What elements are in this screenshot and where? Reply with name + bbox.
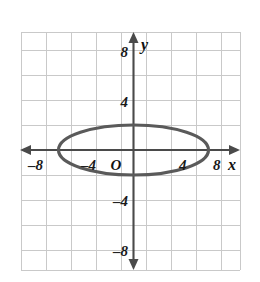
x-tick-label-8: 8 [213,157,221,173]
y-axis-name: y [139,36,149,54]
y-tick-label--4: –4 [112,193,129,209]
y-tick-label--8: –8 [112,243,129,259]
y-tick-label-8: 8 [121,44,129,60]
graph-svg: –8 –4 4 8 8 4 –4 –8 O y x [0,0,260,282]
coordinate-plane-figure: –8 –4 4 8 8 4 –4 –8 O y x [0,0,260,282]
y-tick-label-4: 4 [120,94,129,110]
x-tick-label--8: –8 [27,157,44,173]
origin-label: O [111,157,122,173]
x-axis-name: x [227,156,236,173]
x-tick-label--4: –4 [80,157,97,173]
x-tick-label-4: 4 [178,157,187,173]
